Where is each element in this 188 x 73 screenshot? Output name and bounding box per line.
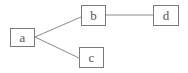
node-c-label: c <box>89 51 95 64</box>
node-a-label: a <box>20 31 26 44</box>
node-d: d <box>153 5 179 26</box>
node-c: c <box>79 47 104 68</box>
node-a: a <box>10 28 35 47</box>
node-b-label: b <box>90 9 97 22</box>
tree-diagram: a b c d <box>0 0 188 73</box>
node-b: b <box>81 5 106 26</box>
node-d-label: d <box>163 9 170 22</box>
edge-a-c <box>35 37 79 58</box>
edge-a-b <box>35 17 81 37</box>
